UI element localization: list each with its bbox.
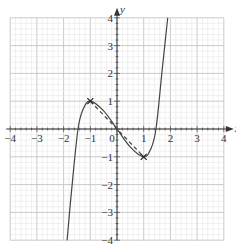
y-tick-label: −2	[101, 179, 113, 191]
x-tick-label: −3	[31, 132, 43, 144]
y-tick-label: −3	[101, 206, 113, 218]
y-axis-label: y	[119, 3, 125, 15]
x-tick-label: −1	[84, 132, 96, 144]
y-tick-label: 1	[108, 95, 114, 107]
x-tick-label: 4	[221, 132, 227, 144]
x-axis-arrow-icon	[226, 126, 234, 132]
y-tick-label: 2	[108, 67, 114, 79]
x-tick-label: 0	[109, 132, 115, 144]
y-tick-label: 3	[108, 40, 114, 52]
y-tick-label: −4	[101, 234, 113, 246]
cubic-graph: −4−3−2−101234−4−3−2−11234xy	[0, 0, 236, 247]
x-tick-label: 3	[194, 132, 200, 144]
x-axis-label: x	[234, 122, 236, 134]
y-tick-label: 4	[108, 12, 114, 24]
x-tick-label: 2	[168, 132, 174, 144]
x-tick-label: −4	[4, 132, 16, 144]
y-tick-label: −1	[101, 151, 113, 163]
x-tick-label: 1	[141, 132, 147, 144]
x-tick-label: −2	[58, 132, 70, 144]
